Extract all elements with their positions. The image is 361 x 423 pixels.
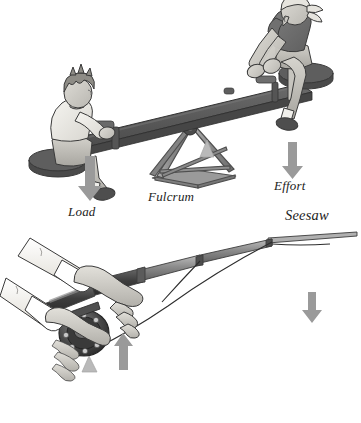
seesaw-frame [150,128,236,188]
figure-canvas: Load Fulcrum Effort Seesaw [0,0,361,423]
panel-seesaw: Load Fulcrum Effort Seesaw [0,0,361,230]
fishing-rod-illustration [0,230,361,423]
load-arrow-rod [302,292,322,323]
rider-left [29,64,116,201]
label-fulcrum-seesaw: Fulcrum [148,190,194,203]
effort-arrow-seesaw [282,142,303,179]
label-effort-seesaw: Effort [274,179,306,192]
label-load-seesaw: Load [68,205,96,218]
panel-fishing-rod: Load Effort Fulcrum Fishing rod [0,230,361,423]
fulcrum-marker-rod [82,356,97,372]
effort-arrow-rod [114,333,133,370]
panel-title-seesaw: Seesaw [285,208,329,223]
